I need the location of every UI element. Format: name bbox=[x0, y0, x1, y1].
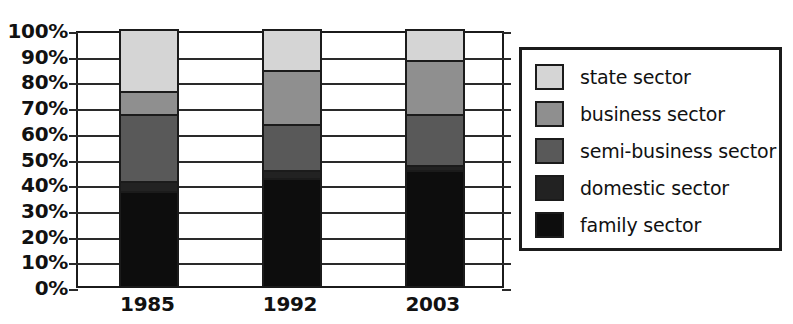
x-tick-label-2003: 2003 bbox=[405, 292, 459, 316]
legend-swatch-icon bbox=[535, 175, 564, 201]
bar-segment-state-sector bbox=[262, 29, 322, 70]
y-tick-label: 70% bbox=[21, 98, 68, 118]
chart-legend: state sectorbusiness sectorsemi-business… bbox=[519, 47, 782, 251]
legend-item-semi-business-sector[interactable]: semi-business sector bbox=[522, 133, 779, 169]
y-axis-tick-right bbox=[502, 135, 511, 137]
x-tick-label-1992: 1992 bbox=[263, 292, 317, 316]
legend-item-label: business sector bbox=[580, 103, 725, 125]
y-axis-tick bbox=[69, 186, 78, 188]
bar-1985 bbox=[119, 29, 179, 286]
bar-segment-state-sector bbox=[405, 29, 465, 60]
legend-item-state-sector[interactable]: state sector bbox=[522, 59, 779, 95]
y-axis-tick-right bbox=[502, 186, 511, 188]
bar-1992 bbox=[262, 29, 322, 286]
legend-item-label: domestic sector bbox=[580, 177, 729, 199]
legend-item-label: family sector bbox=[580, 214, 701, 236]
y-axis-tick-right bbox=[502, 263, 511, 265]
legend-item-business-sector[interactable]: business sector bbox=[522, 96, 779, 132]
legend-item-label: semi-business sector bbox=[580, 140, 776, 162]
y-axis-tick bbox=[69, 263, 78, 265]
bar-segment-business-sector bbox=[119, 91, 179, 114]
legend-swatch-icon bbox=[535, 101, 564, 127]
y-tick-label: 90% bbox=[21, 47, 68, 67]
y-axis-tick bbox=[69, 58, 78, 60]
y-axis-tick bbox=[69, 135, 78, 137]
y-axis-tick-right bbox=[502, 212, 511, 214]
legend-swatch-icon bbox=[535, 138, 564, 164]
y-axis-tick-right bbox=[502, 58, 511, 60]
bar-segment-semi-business-sector bbox=[262, 124, 322, 170]
bar-segment-family-sector bbox=[119, 191, 179, 286]
y-axis-tick bbox=[69, 109, 78, 111]
bar-segment-domestic-sector bbox=[262, 170, 322, 178]
y-axis-tick-right bbox=[502, 238, 511, 240]
y-axis-tick bbox=[69, 161, 78, 163]
legend-swatch-icon bbox=[535, 64, 564, 90]
bar-segment-domestic-sector bbox=[405, 165, 465, 170]
y-axis: 0%10%20%30%40%50%60%70%80%90%100% bbox=[0, 0, 72, 324]
bar-segment-family-sector bbox=[405, 170, 465, 286]
y-axis-tick bbox=[69, 32, 78, 34]
legend-item-family-sector[interactable]: family sector bbox=[522, 207, 779, 243]
y-axis-tick bbox=[69, 212, 78, 214]
y-axis-tick-right bbox=[502, 83, 511, 85]
y-axis-tick bbox=[69, 238, 78, 240]
y-tick-label: 50% bbox=[21, 150, 68, 170]
y-tick-label: 10% bbox=[21, 252, 68, 272]
y-tick-label: 30% bbox=[21, 201, 68, 221]
bar-segment-family-sector bbox=[262, 178, 322, 286]
y-axis-tick-right bbox=[502, 161, 511, 163]
bar-segment-business-sector bbox=[405, 60, 465, 114]
x-axis: 198519922003 bbox=[76, 290, 504, 324]
y-tick-label: 0% bbox=[35, 278, 68, 298]
bar-segment-semi-business-sector bbox=[119, 114, 179, 181]
bar-segment-semi-business-sector bbox=[405, 114, 465, 165]
stacked-bar-chart: 0%10%20%30%40%50%60%70%80%90%100% 198519… bbox=[0, 0, 793, 324]
y-tick-label: 80% bbox=[21, 72, 68, 92]
bar-segment-business-sector bbox=[262, 70, 322, 124]
legend-item-domestic-sector[interactable]: domestic sector bbox=[522, 170, 779, 206]
bar-segment-state-sector bbox=[119, 29, 179, 91]
bar-2003 bbox=[405, 29, 465, 286]
y-tick-label: 60% bbox=[21, 124, 68, 144]
bar-segment-domestic-sector bbox=[119, 181, 179, 191]
y-tick-label: 20% bbox=[21, 227, 68, 247]
y-tick-label: 100% bbox=[7, 21, 68, 41]
legend-item-label: state sector bbox=[580, 66, 691, 88]
y-axis-tick-right bbox=[502, 109, 511, 111]
y-tick-label: 40% bbox=[21, 175, 68, 195]
plot-area bbox=[76, 31, 504, 288]
y-axis-tick-right bbox=[502, 32, 511, 34]
x-tick-label-1985: 1985 bbox=[120, 292, 174, 316]
y-axis-tick bbox=[69, 83, 78, 85]
legend-swatch-icon bbox=[535, 212, 564, 238]
